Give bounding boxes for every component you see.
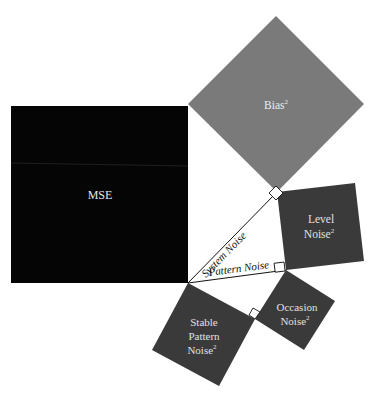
level-noise-label-line2: Noise — [304, 228, 331, 240]
stable-pattern-noise-square: Stable Pattern Noise2 — [152, 283, 255, 386]
stable-pattern-noise-superscript: 2 — [213, 343, 217, 351]
bias-square: Bias2 — [188, 16, 364, 192]
bias-label: Bias — [264, 99, 285, 111]
occasion-noise-square: Occasion Noise2 — [255, 270, 335, 350]
bias-superscript: 2 — [284, 98, 288, 106]
level-noise-label-line1: Level — [308, 213, 334, 225]
svg-text:Noise2: Noise2 — [304, 227, 335, 240]
svg-text:Noise2: Noise2 — [280, 314, 310, 327]
stable-pattern-noise-label-line2: Pattern — [188, 330, 220, 342]
occasion-noise-label-line2: Noise — [280, 315, 306, 327]
mse-label: MSE — [88, 188, 113, 202]
occasion-noise-label-line1: Occasion — [277, 301, 318, 313]
right-angle-marker-level — [274, 262, 285, 272]
svg-text:Noise2: Noise2 — [187, 343, 217, 356]
error-decomposition-diagram: MSE Bias2 Level Noise2 Occasion Noise2 S… — [0, 0, 380, 402]
mse-square: MSE — [11, 106, 188, 283]
level-noise-superscript: 2 — [331, 227, 335, 235]
level-noise-square: Level Noise2 — [277, 183, 364, 270]
stable-pattern-noise-label-line3: Noise — [187, 344, 213, 356]
occasion-noise-superscript: 2 — [306, 314, 310, 322]
stable-pattern-noise-label-line1: Stable — [190, 316, 218, 328]
